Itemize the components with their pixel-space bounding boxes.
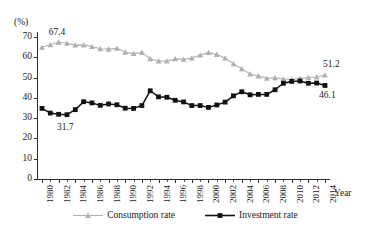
data-point-marker — [131, 106, 136, 111]
x-tick-mark — [325, 180, 326, 183]
data-point-marker — [231, 61, 237, 66]
x-tick-mark — [275, 180, 276, 183]
data-label-46-1: 46.1 — [319, 90, 336, 100]
legend-entry-investment-rate[interactable]: Investment rate — [205, 210, 298, 220]
data-point-marker — [247, 71, 253, 76]
y-axis-unit-label: (%) — [14, 17, 28, 28]
x-tick-mark-minor — [117, 180, 118, 182]
data-point-marker — [198, 103, 203, 108]
y-tick-label: 50 — [23, 73, 33, 83]
x-tick-label: 1982 — [63, 185, 72, 203]
x-tick-mark-minor — [184, 180, 185, 182]
data-point-marker — [322, 72, 328, 77]
x-tick-mark-minor — [50, 180, 51, 182]
x-tick-mark-minor — [200, 180, 201, 182]
x-tick-mark-minor — [167, 180, 168, 182]
data-point-marker — [231, 93, 236, 98]
x-tick-mark — [59, 180, 60, 183]
data-point-marker — [281, 81, 286, 86]
data-point-marker — [173, 98, 178, 103]
data-point-marker — [306, 81, 311, 86]
x-tick-label: 2000 — [212, 185, 221, 203]
legend-swatch-triangle-icon — [73, 211, 103, 220]
x-tick-mark-minor — [300, 180, 301, 182]
x-tick-mark — [225, 180, 226, 183]
data-point-marker — [323, 83, 328, 88]
x-tick-mark — [292, 180, 293, 183]
x-tick-label: 1992 — [146, 185, 155, 203]
data-point-marker — [139, 103, 144, 108]
data-point-marker — [81, 99, 86, 104]
x-tick-mark-minor — [250, 180, 251, 182]
x-tick-mark-minor — [267, 180, 268, 182]
x-tick-mark-minor — [233, 180, 234, 182]
y-tick-label: 0 — [27, 174, 32, 184]
x-tick-mark-minor — [150, 180, 151, 182]
data-point-marker — [206, 50, 212, 55]
x-tick-label: 2010 — [296, 185, 305, 203]
data-point-marker — [106, 102, 111, 107]
series-line — [42, 81, 325, 115]
legend-label: Investment rate — [239, 210, 298, 220]
x-tick-mark-minor — [134, 180, 135, 182]
x-tick-mark — [42, 180, 43, 183]
data-point-marker — [148, 88, 153, 93]
x-tick-mark — [258, 180, 259, 183]
x-tick-label: 2002 — [229, 185, 238, 203]
data-point-marker — [264, 92, 269, 97]
y-tick-label: 40 — [23, 93, 33, 103]
data-label-51-2: 51.2 — [323, 59, 340, 69]
y-tick-label: 10 — [23, 154, 33, 164]
legend-label: Consumption rate — [107, 210, 175, 220]
data-point-marker — [73, 107, 78, 112]
x-tick-mark-minor — [84, 180, 85, 182]
data-point-marker — [222, 55, 228, 60]
data-point-marker — [206, 105, 211, 110]
x-tick-label: 2008 — [279, 185, 288, 203]
data-point-marker — [48, 111, 53, 116]
x-tick-mark-minor — [283, 180, 284, 182]
x-tick-mark — [242, 180, 243, 183]
data-point-marker — [181, 100, 186, 105]
data-point-marker — [189, 103, 194, 108]
x-tick-mark — [308, 180, 309, 183]
data-point-marker — [298, 79, 303, 84]
x-tick-label: 2012 — [312, 185, 321, 203]
data-point-marker — [40, 106, 45, 111]
x-tick-mark-minor — [67, 180, 68, 182]
legend-entry-consumption-rate[interactable]: Consumption rate — [73, 210, 175, 220]
data-point-marker — [273, 87, 278, 92]
x-tick-label: 1996 — [179, 185, 188, 203]
x-tick-mark — [175, 180, 176, 183]
data-point-marker — [115, 102, 120, 107]
data-point-marker — [164, 95, 169, 100]
x-tick-mark — [159, 180, 160, 183]
x-tick-label: 1990 — [129, 185, 138, 203]
x-tick-mark — [75, 180, 76, 183]
x-tick-label: 1994 — [163, 185, 172, 203]
data-label-31-7: 31.7 — [57, 122, 74, 132]
series-investment-rate — [40, 79, 328, 117]
data-point-marker — [223, 100, 228, 105]
x-tick-label: 1984 — [79, 185, 88, 203]
line-chart-figure: (%) 010203040506070 19801982198419861988… — [0, 0, 371, 239]
data-point-marker — [214, 103, 219, 108]
data-point-marker — [248, 92, 253, 97]
data-point-marker — [314, 81, 319, 86]
x-tick-label: 2004 — [246, 185, 255, 203]
data-point-marker — [98, 103, 103, 108]
x-tick-mark — [208, 180, 209, 183]
x-tick-mark — [109, 180, 110, 183]
data-point-marker — [65, 112, 70, 117]
legend-swatch-square-icon — [205, 211, 235, 220]
x-tick-label: 1986 — [96, 185, 105, 203]
x-tick-mark-minor — [317, 180, 318, 182]
data-point-marker — [239, 89, 244, 94]
data-point-marker — [256, 92, 261, 97]
data-point-marker — [90, 101, 95, 106]
data-label-67-4: 67.4 — [49, 27, 66, 37]
x-tick-label: 1988 — [113, 185, 122, 203]
series-layer — [37, 32, 330, 180]
y-tick-label: 30 — [23, 113, 33, 123]
x-tick-mark-minor — [217, 180, 218, 182]
